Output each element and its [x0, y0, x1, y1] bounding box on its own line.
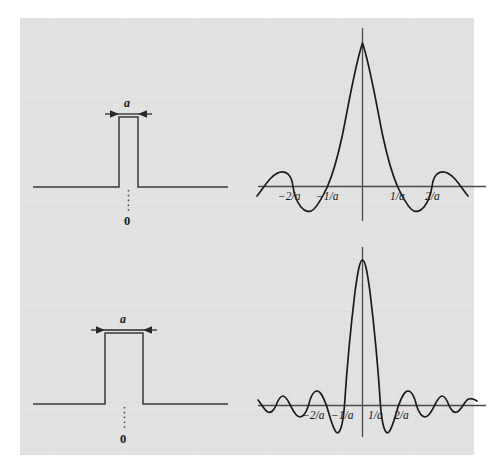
top-left-origin-label: 0 [124, 215, 130, 228]
top-left-width-label: a [124, 97, 130, 109]
top-right-tick-plus-two: 2/a [425, 191, 440, 203]
bottom-right-tick-plus-two: 2/a [394, 410, 409, 422]
chart-bottom-left [33, 326, 228, 430]
bottom-right-tick-minus-one: −1/a [331, 410, 353, 422]
top-right-tick-minus-two: −2/a [278, 191, 300, 203]
bottom-left-origin-label: 0 [120, 433, 126, 446]
bottom-left-width-label: a [120, 313, 126, 325]
figure-line-art [0, 0, 499, 465]
bottom-right-tick-plus-one: 1/a [368, 410, 383, 422]
top-left-pulse-curve [33, 117, 228, 187]
figure-root: a 0 −2/a −1/a 1/a 2/a a 0 −2/a −1/a 1/a … [0, 0, 499, 465]
bottom-right-sinc-curve [258, 260, 477, 433]
bottom-left-pulse-curve [33, 333, 228, 404]
top-right-tick-plus-one: 1/a [390, 191, 405, 203]
chart-top-left [33, 110, 228, 212]
bottom-right-tick-minus-two: −2/a [302, 410, 324, 422]
top-right-tick-minus-one: −1/a [316, 191, 338, 203]
